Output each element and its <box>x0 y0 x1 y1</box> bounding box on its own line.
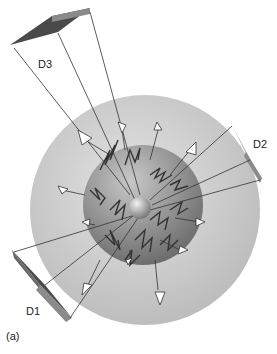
diagram-graphic <box>0 0 277 354</box>
detector-d3-label: D3 <box>38 58 52 70</box>
core-sphere <box>129 197 151 219</box>
detector-d1-label: D1 <box>26 305 40 317</box>
detector-d2-label: D2 <box>253 138 267 150</box>
figure-canvas: D3 D2 D1 (a) <box>0 0 277 354</box>
panel-label: (a) <box>6 330 19 342</box>
